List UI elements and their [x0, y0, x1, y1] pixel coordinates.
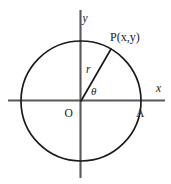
angle-theta-label: θ [91, 85, 97, 97]
point-p-paren-close: ) [136, 30, 140, 44]
figure-container: y x O A r θ P(x,y) [0, 0, 171, 184]
x-axis-label: x [155, 82, 162, 94]
y-axis-label: y [82, 12, 89, 25]
point-a-label: A [136, 107, 145, 119]
point-p-label: P(x,y) [110, 30, 140, 44]
radius-label: r [86, 63, 91, 75]
origin-label: O [65, 107, 73, 119]
point-p-label-group: P(x,y) [110, 30, 140, 44]
unit-circle-diagram: y x O A r θ P(x,y) [0, 0, 171, 184]
